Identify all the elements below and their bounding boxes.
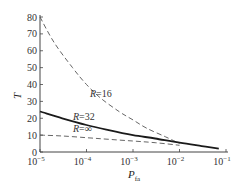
y-tick-label: 70 [27,28,37,39]
x-tick-label: 10−1 [213,155,231,167]
curve-r32 [40,112,219,149]
curve-label: R=16 [89,88,112,99]
axes: 0102030405060708010−510−410−310−210−1Pfa… [11,12,231,184]
curve-label: R=32 [72,111,95,122]
x-axis-label: Pfa [127,168,141,183]
x-tick-label: 10−3 [120,155,138,167]
curve-label: R=∞ [72,123,92,134]
y-tick-label: 40 [27,79,37,90]
y-tick-label: 20 [27,113,37,124]
y-tick-label: 60 [27,45,37,56]
chart: 0102030405060708010−510−410−310−210−1Pfa… [0,0,249,187]
y-tick-label: 10 [27,130,37,141]
y-axis-label: T [11,92,23,99]
x-tick-label: 10−4 [74,155,92,167]
x-tick-label: 10−2 [167,155,185,167]
y-tick-label: 30 [27,96,37,107]
x-tick-label: 10−5 [27,155,45,167]
curve-r [40,135,180,145]
y-tick-label: 50 [27,62,37,73]
y-tick-label: 80 [27,12,37,23]
curve-r16 [40,17,180,144]
curves [40,17,219,149]
curve-labels: R=16R=32R=∞ [72,88,112,134]
